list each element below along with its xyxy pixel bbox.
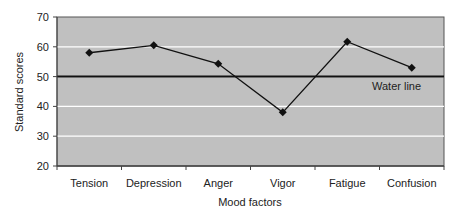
x-tick-label: Vigor <box>270 177 296 189</box>
x-tick-label: Depression <box>126 177 182 189</box>
x-tick-label: Anger <box>204 177 234 189</box>
y-tick-label: 70 <box>37 11 49 23</box>
x-axis-title: Mood factors <box>218 196 282 208</box>
y-tick-label: 20 <box>37 160 49 172</box>
y-tick-label: 30 <box>37 130 49 142</box>
y-tick-label: 40 <box>37 100 49 112</box>
x-tick-label: Fatigue <box>329 177 366 189</box>
y-axis-title: Standard scores <box>13 51 25 132</box>
y-axis-ticks: 203040506070 <box>37 11 57 172</box>
y-tick-label: 60 <box>37 41 49 53</box>
x-axis-ticks: TensionDepressionAngerVigorFatigueConfus… <box>57 166 444 189</box>
x-tick-label: Tension <box>70 177 108 189</box>
x-tick-label: Confusion <box>387 177 437 189</box>
y-tick-label: 50 <box>37 71 49 83</box>
water-line-label: Water line <box>372 80 421 92</box>
chart: 203040506070 TensionDepressionAngerVigor… <box>0 0 457 217</box>
